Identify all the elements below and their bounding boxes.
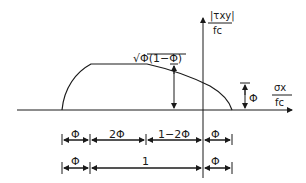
svg-text:Φ: Φ xyxy=(211,155,220,168)
yield-diagram: √Φ(1−Φ) Φ |τxy| fc σx fc Φ 2Φ 1−2Φ Φ xyxy=(0,0,306,183)
dimension-row-1: Φ 2Φ 1−2Φ Φ xyxy=(62,128,232,145)
dimension-row-2: Φ 1 Φ xyxy=(62,155,232,174)
svg-text:Φ: Φ xyxy=(211,128,220,141)
phi-height-label: Φ xyxy=(249,92,258,105)
yield-curve xyxy=(62,64,232,110)
y-axis-label-num: |τxy| xyxy=(210,10,235,22)
svg-text:1−2Φ: 1−2Φ xyxy=(158,128,190,141)
y-axis-label-den: fc xyxy=(213,25,222,36)
svg-text:1: 1 xyxy=(142,155,149,168)
x-axis-label-den: fc xyxy=(275,97,284,108)
svg-text:2Φ: 2Φ xyxy=(109,128,125,141)
x-axis-label-num: σx xyxy=(274,82,286,93)
peak-label: √Φ(1−Φ) xyxy=(133,52,182,65)
svg-text:Φ: Φ xyxy=(71,155,80,168)
svg-text:Φ: Φ xyxy=(71,128,80,141)
